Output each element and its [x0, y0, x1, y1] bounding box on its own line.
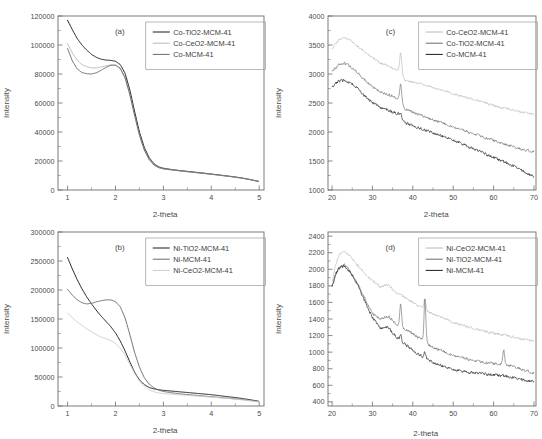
panel-b-xtick-label: 3 — [161, 409, 165, 418]
panel-c-ytick-label: 1500 — [309, 157, 325, 166]
panel-b-legend: Ni-TiO2-MCM-41Ni-MCM-41Ni-CeO2-MCM-41 — [146, 238, 266, 286]
panel-c-ytick-label: 3500 — [309, 41, 325, 50]
panel-d-xtick-label: 40 — [409, 409, 417, 418]
panel-a-xtick-label: 1 — [66, 193, 70, 202]
panel-c-xtick-label: 40 — [409, 193, 417, 202]
panel-a-legend: Co-TiO2-MCM-41Co-CeO2-MCM-41Co-MCM-41 — [146, 22, 266, 70]
panel-a-legend-label: Co-CeO2-MCM-41 — [173, 39, 235, 48]
panel-d-series-ni-ceo2-mcm-41 — [332, 251, 534, 341]
panel-c-ytick-label: 2000 — [309, 128, 325, 137]
panel-c-x-axis: 203040506070 — [328, 186, 538, 203]
panel-d: 4006008001000120014001600180020002200240… — [272, 218, 542, 439]
panel-d-ytick-label: 2200 — [309, 248, 325, 257]
panel-b-ytick-label: 300000 — [31, 228, 55, 237]
panel-d-legend-label: Ni-CeO2-MCM-41 — [446, 244, 506, 253]
panel-b-legend-label: Ni-TiO2-MCM-41 — [173, 244, 229, 253]
panel-d-ytick-label: 800 — [313, 364, 325, 373]
panel-b-ytick-label: 100000 — [31, 344, 55, 353]
panel-a-tag: (a) — [115, 27, 125, 36]
panel-d-legend-label: Ni-MCM-41 — [446, 266, 484, 275]
panel-c-ytick-label: 2500 — [309, 99, 325, 108]
panel-d-ytick-label: 600 — [313, 381, 325, 390]
panel-c-series-co-ceo2-mcm-41 — [332, 37, 534, 114]
panel-b-ytick-label: 200000 — [31, 286, 55, 295]
panel-d-ytick-label: 400 — [313, 397, 325, 406]
panel-c-legend-label: Co-TiO2-MCM-41 — [446, 39, 504, 48]
panel-b-xtick-label: 5 — [257, 409, 261, 418]
panel-c-legend-label: Co-MCM-41 — [446, 50, 486, 59]
panel-b-xtick-label: 4 — [209, 409, 213, 418]
panel-a-ytick-label: 0 — [51, 186, 55, 195]
panel-a-xtick-label: 3 — [161, 193, 165, 202]
panel-d-ytick-label: 1000 — [309, 348, 325, 357]
panel-a-legend-label: Co-MCM-41 — [173, 50, 213, 59]
panel-c-xtick-label: 60 — [490, 193, 498, 202]
panel-b-curves — [68, 258, 259, 402]
panel-c-xtick-label: 20 — [328, 193, 336, 202]
panel-b-legend-label: Ni-CeO2-MCM-41 — [173, 266, 233, 275]
panel-c-legend: Co-CeO2-MCM-41Co-TiO2-MCM-41Co-MCM-41 — [419, 22, 538, 70]
panel-d-xtick-label: 20 — [328, 409, 336, 418]
panel-c-canvas: 1000150020002500300035004000203040506070… — [272, 2, 542, 220]
panel-c-curves — [332, 37, 534, 177]
panel-d-yaxis-title: Intensity — [274, 304, 283, 334]
panel-d-xtick-label: 50 — [449, 409, 457, 418]
panel-b-xaxis-title: 2-theta — [153, 426, 178, 435]
panel-a-ytick-label: 80000 — [35, 70, 55, 79]
panel-d-xtick-label: 70 — [530, 409, 538, 418]
panel-b-xtick-label: 2 — [113, 409, 117, 418]
panel-a-ytick-label: 120000 — [31, 12, 55, 21]
panel-b-xtick-label: 1 — [66, 409, 70, 418]
panel-d-series-ni-mcm-41 — [332, 265, 534, 382]
panel-d-legend-label: Ni-TiO2-MCM-41 — [446, 255, 502, 264]
panel-d-legend: Ni-CeO2-MCM-41Ni-TiO2-MCM-41Ni-MCM-41 — [419, 238, 538, 286]
panel-b-series-ni-tio2-mcm-41 — [68, 258, 259, 402]
panel-d-xtick-label: 60 — [490, 409, 498, 418]
panel-a-ytick-label: 20000 — [35, 157, 55, 166]
panel-b-plot-frame — [58, 232, 264, 406]
panel-a-ytick-label: 100000 — [31, 41, 55, 50]
panel-a: 020000400006000080000100000120000123452-… — [0, 2, 272, 220]
panel-d-x-axis: 203040506070 — [328, 402, 538, 419]
panel-b-tag: (b) — [115, 243, 125, 252]
panel-a-ytick-label: 60000 — [35, 99, 55, 108]
panel-c-xtick-label: 70 — [530, 193, 538, 202]
panel-b: 0500001000001500002000002500003000001234… — [0, 218, 272, 436]
panel-c-xtick-label: 50 — [449, 193, 457, 202]
panel-c-ytick-label: 3000 — [309, 70, 325, 79]
panel-b-series-ni-mcm-41 — [68, 289, 259, 401]
panel-b-ytick-label: 50000 — [35, 373, 55, 382]
panel-c-plot-frame — [328, 16, 536, 190]
panel-d-y-axis: 4006008001000120014001600180020002200240… — [309, 232, 333, 407]
panel-d-xaxis-title: 2-theta — [413, 429, 438, 438]
panel-a-xtick-label: 5 — [257, 193, 261, 202]
panel-d-ytick-label: 1200 — [309, 331, 325, 340]
panel-d-ytick-label: 2400 — [309, 232, 325, 241]
xrd-figure: 020000400006000080000100000120000123452-… — [0, 0, 542, 439]
panel-a-xtick-label: 2 — [113, 193, 117, 202]
panel-b-legend-label: Ni-MCM-41 — [173, 255, 211, 264]
panel-d-canvas: 4006008001000120014001600180020002200240… — [272, 218, 542, 439]
panel-d-xtick-label: 30 — [368, 409, 376, 418]
panel-c-legend-label: Co-CeO2-MCM-41 — [446, 28, 508, 37]
panel-b-canvas: 0500001000001500002000002500003000001234… — [0, 218, 272, 436]
panel-a-xtick-label: 4 — [209, 193, 213, 202]
panel-b-ytick-label: 150000 — [31, 315, 55, 324]
panel-a-x-axis: 12345 — [66, 186, 262, 203]
panel-d-ytick-label: 2000 — [309, 265, 325, 274]
panel-c-ytick-label: 4000 — [309, 12, 325, 21]
panel-c-y-axis: 1000150020002500300035004000 — [309, 12, 333, 195]
panel-d-plot-frame — [328, 232, 536, 406]
panel-a-series-co-ceo2-mcm-41 — [68, 44, 259, 182]
panel-b-yaxis-title: Intensity — [2, 304, 11, 334]
panel-a-ytick-label: 40000 — [35, 128, 55, 137]
panel-c: 1000150020002500300035004000203040506070… — [272, 2, 542, 220]
panel-d-ytick-label: 1400 — [309, 315, 325, 324]
panel-c-ytick-label: 1000 — [309, 186, 325, 195]
panel-b-x-axis: 12345 — [66, 402, 262, 419]
panel-d-series-ni-tio2-mcm-41 — [332, 264, 534, 374]
panel-c-xtick-label: 30 — [368, 193, 376, 202]
panel-c-series-co-mcm-41 — [332, 79, 534, 177]
panel-b-series-ni-ceo2-mcm-41 — [68, 313, 259, 402]
panel-d-ytick-label: 1800 — [309, 281, 325, 290]
